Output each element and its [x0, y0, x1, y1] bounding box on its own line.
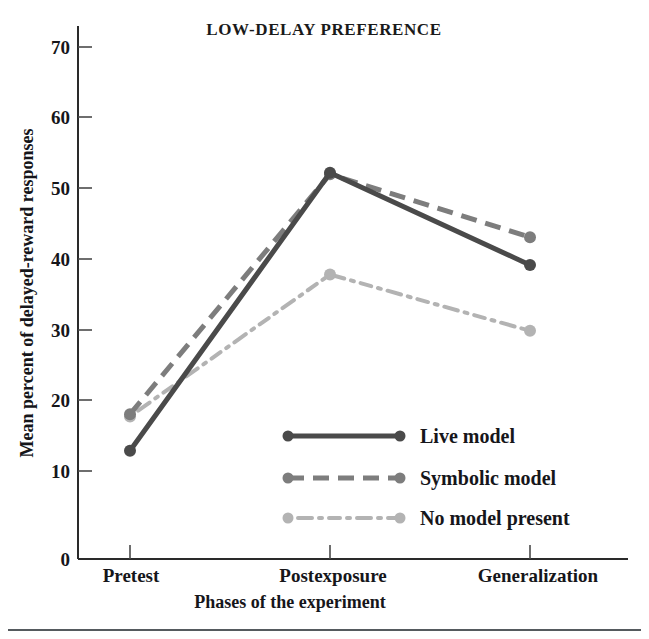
legend-marker-live-right [395, 431, 406, 442]
data-point [124, 408, 136, 420]
x-label-postexposure: Postexposure [279, 565, 386, 586]
legend-marker-nomodel-right [395, 513, 406, 524]
y-axis-title: Mean percent of delayed-reward responses [17, 129, 37, 458]
data-point [324, 167, 336, 179]
data-point [524, 231, 536, 243]
chart-title: LOW-DELAY PREFERENCE [206, 20, 441, 39]
x-label-pretest: Pretest [103, 565, 160, 586]
data-point [324, 269, 336, 281]
low-delay-preference-chart: LOW-DELAY PREFERENCE 70 60 50 40 30 20 1… [0, 0, 649, 639]
x-label-generalization: Generalization [478, 565, 599, 586]
legend-marker-live-left [283, 431, 294, 442]
chart-background [0, 0, 649, 639]
y-tick-label-50: 50 [51, 178, 70, 199]
y-tick-label-70: 70 [51, 37, 70, 58]
x-axis-title: Phases of the experiment [194, 592, 385, 612]
legend-marker-symbolic-left [283, 473, 294, 484]
legend-marker-nomodel-left [283, 513, 294, 524]
y-tick-label-10: 10 [51, 461, 70, 482]
y-tick-label-30: 30 [51, 320, 70, 341]
y-tick-label-40: 40 [51, 249, 70, 270]
legend-label-no-model-present: No model present [420, 507, 570, 530]
legend-label-live-model: Live model [420, 425, 515, 447]
legend-marker-symbolic-right [395, 473, 406, 484]
data-point [124, 445, 136, 457]
data-point [524, 325, 536, 337]
y-tick-label-60: 60 [51, 107, 70, 128]
data-point [524, 259, 536, 271]
y-tick-label-0: 0 [61, 549, 71, 570]
legend-label-symbolic-model: Symbolic model [420, 467, 557, 490]
y-tick-label-20: 20 [51, 390, 70, 411]
